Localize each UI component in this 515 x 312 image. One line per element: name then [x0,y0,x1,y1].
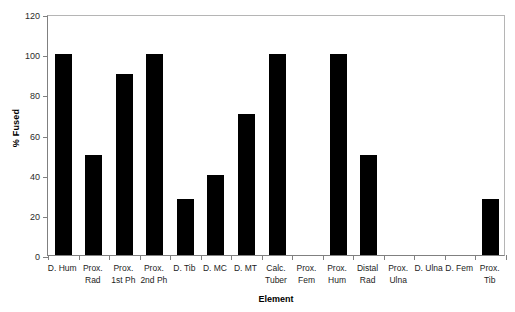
bar[interactable] [55,54,72,255]
bar[interactable] [269,54,286,255]
x-axis-title: Element [47,294,505,304]
x-axis-tick [414,255,415,260]
y-axis-title-text: % Fused [11,109,21,147]
y-axis-tick-label: 80 [30,91,40,101]
x-axis-tick [201,255,202,260]
y-axis-tick-label: 100 [25,51,40,61]
x-axis-tick [79,255,80,260]
y-axis-tick-label: 120 [25,11,40,21]
x-axis-tick [323,255,324,260]
chart-figure: % Fused 020406080100120 D. HumProx. RadP… [0,0,515,312]
y-axis-tick-label: 0 [35,252,40,262]
bar[interactable] [207,175,224,255]
bar[interactable] [330,54,347,255]
x-axis-tick [445,255,446,260]
x-axis-tick [475,255,476,260]
y-axis-tick [43,96,48,97]
plot-inner: 020406080100120 [48,16,504,255]
y-axis-tick [43,217,48,218]
bar[interactable] [146,54,163,255]
x-axis-category-label: Prox. Tib [470,263,509,286]
x-axis-tick [48,255,49,260]
x-axis-tick [262,255,263,260]
x-axis-tick [231,255,232,260]
y-axis-tick [43,16,48,17]
y-axis-tick-label: 40 [30,172,40,182]
x-axis-tick [353,255,354,260]
bar[interactable] [116,74,133,255]
x-axis-tick [292,255,293,260]
x-axis-category-labels: D. HumProx. RadProx. 1st PhProx. 2nd PhD… [47,263,505,297]
x-axis-tick [140,255,141,260]
x-axis-tick [384,255,385,260]
y-axis-tick-label: 60 [30,132,40,142]
x-axis-tick [506,255,507,260]
plot-area: 020406080100120 [47,15,505,256]
x-axis-tick [170,255,171,260]
bar[interactable] [360,155,377,255]
bar[interactable] [177,199,194,255]
y-axis-tick [43,177,48,178]
y-axis-title: % Fused [8,0,24,256]
bar[interactable] [482,199,499,255]
bar[interactable] [85,155,102,255]
x-axis-tick [109,255,110,260]
y-axis-tick [43,137,48,138]
y-axis-tick [43,56,48,57]
y-axis-tick-label: 20 [30,212,40,222]
bar[interactable] [238,114,255,255]
